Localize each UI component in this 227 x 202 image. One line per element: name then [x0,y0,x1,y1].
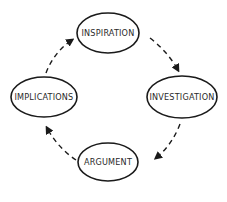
node-inspiration: INSPIRATION [77,13,139,53]
edge-inspiration-investigation [150,38,178,70]
node-label: INSPIRATION [82,28,135,38]
edge-implications-inspiration [46,40,72,73]
node-implications: IMPLICATIONS [11,77,77,117]
node-label: IMPLICATIONS [15,92,74,102]
node-investigation: INVESTIGATION [147,76,217,118]
edge-argument-implications [47,128,76,160]
node-argument: ARGUMENT [78,143,138,181]
node-label: ARGUMENT [84,157,132,167]
edge-investigation-argument [156,124,180,158]
node-label: INVESTIGATION [149,92,214,102]
cycle-diagram: INSPIRATION INVESTIGATION ARGUMENT IMPLI… [0,0,227,202]
